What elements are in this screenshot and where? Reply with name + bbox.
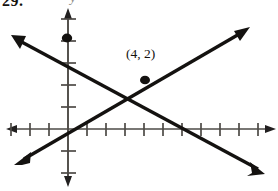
intersection-point-dot bbox=[140, 76, 150, 85]
ascending-line-upper-right-arrowhead bbox=[234, 27, 250, 41]
y-intercept-point-dot bbox=[62, 34, 72, 43]
x-axis-right-arrowhead bbox=[265, 125, 276, 133]
graph-figure: 29. y bbox=[0, 0, 278, 191]
ascending-line-lower-left-arrowhead bbox=[14, 152, 31, 165]
coordinate-plane bbox=[0, 0, 278, 191]
y-axis-down-arrowhead bbox=[64, 176, 72, 187]
intersection-point-label: (4, 2) bbox=[126, 47, 155, 61]
y-axis-up-arrowhead bbox=[64, 8, 72, 19]
